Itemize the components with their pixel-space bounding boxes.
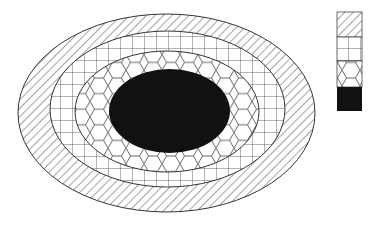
legend [337,12,362,111]
legend-hex-swatch [337,61,362,87]
layered-ellipse-diagram [0,0,385,228]
black-core [109,69,230,153]
legend-stripes-swatch [337,12,362,37]
diagram-layers [18,14,315,212]
legend-black-swatch [337,87,362,111]
legend-grid-swatch [337,37,362,61]
